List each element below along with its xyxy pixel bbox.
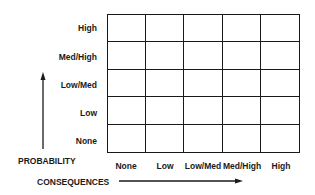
matrix-cell — [223, 42, 261, 69]
matrix-cell — [223, 70, 261, 97]
y-label-med-high: Med/High — [59, 52, 97, 62]
matrix-cell — [146, 125, 184, 152]
risk-matrix-grid — [107, 14, 300, 153]
matrix-cell — [223, 97, 261, 124]
matrix-cell — [146, 97, 184, 124]
consequences-arrowhead-icon — [235, 179, 243, 184]
matrix-cell — [223, 125, 261, 152]
y-label-high: High — [78, 23, 97, 33]
y-axis-title: PROBABILITY — [18, 156, 76, 166]
x-label-high: High — [256, 161, 306, 171]
matrix-cell — [108, 42, 146, 69]
matrix-cell — [146, 42, 184, 69]
x-axis-title: CONSEQUENCES — [37, 177, 109, 187]
y-label-none: None — [76, 136, 97, 146]
matrix-cell — [223, 15, 261, 42]
matrix-cell — [108, 70, 146, 97]
matrix-cell — [184, 97, 222, 124]
matrix-cell — [261, 125, 299, 152]
matrix-cell — [261, 97, 299, 124]
matrix-cell — [108, 97, 146, 124]
matrix-cell — [261, 42, 299, 69]
matrix-cell — [146, 15, 184, 42]
y-label-low: Low — [80, 108, 97, 118]
matrix-cell — [261, 70, 299, 97]
matrix-cell — [261, 15, 299, 42]
matrix-cell — [146, 70, 184, 97]
matrix-cell — [184, 15, 222, 42]
matrix-cell — [108, 125, 146, 152]
matrix-cell — [184, 125, 222, 152]
probability-arrowhead-icon — [41, 72, 46, 80]
matrix-cell — [184, 42, 222, 69]
matrix-cell — [108, 15, 146, 42]
matrix-cell — [184, 70, 222, 97]
y-label-low-med: Low/Med — [61, 80, 97, 90]
